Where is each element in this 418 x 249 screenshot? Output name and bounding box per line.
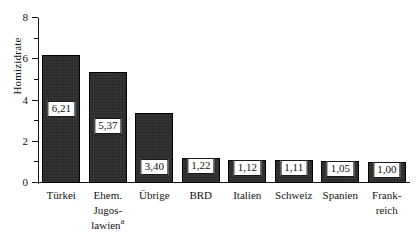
y-tick-label: 2 <box>23 133 29 149</box>
bar-slot: 6,21 <box>42 18 80 183</box>
bar-slot: 5,37 <box>89 18 127 183</box>
x-axis-label-line: Frank- <box>355 188 418 203</box>
x-axis-label-line: reich <box>355 203 418 218</box>
x-axis-category-labels: TürkeiEhem.Jugos-lawienaÜbrigeBRDItalien… <box>38 188 410 248</box>
bar-slot: 1,05 <box>321 18 359 183</box>
x-axis-label: Frank-reich <box>355 188 418 218</box>
bar-series: 6,215,373,401,221,121,111,051,00 <box>38 18 410 183</box>
bar-value-label: 6,21 <box>48 101 75 117</box>
y-tick-label: 8 <box>23 9 29 25</box>
y-axis-title: Homizidrate <box>11 11 23 121</box>
footnote-marker: a <box>121 217 125 226</box>
bar-slot: 1,11 <box>275 18 313 183</box>
bar-value-label: 1,00 <box>373 162 400 178</box>
bar-value-label: 1,12 <box>234 160 261 176</box>
bar-value-label: 3,40 <box>141 159 168 175</box>
bar-slot: 1,00 <box>368 18 406 183</box>
y-tick-label: 6 <box>23 50 29 66</box>
x-axis-label-line: Jugos- <box>76 203 140 218</box>
bar-slot: 3,40 <box>135 18 173 183</box>
y-tick-label: 0 <box>23 174 29 190</box>
bar-value-label: 1,05 <box>327 161 354 177</box>
x-axis-label-line: lawiena <box>76 218 140 233</box>
bar-chart: Homizidrate 02468 6,215,373,401,221,121,… <box>0 0 418 249</box>
plot-area: 02468 6,215,373,401,221,121,111,051,00 <box>38 18 410 183</box>
bar-value-label: 1,11 <box>280 160 307 176</box>
bar-value-label: 5,37 <box>94 118 121 134</box>
bar-value-label: 1,22 <box>187 158 214 174</box>
bar-slot: 1,22 <box>182 18 220 183</box>
y-tick-label: 4 <box>23 92 29 108</box>
bar-slot: 1,12 <box>228 18 266 183</box>
bar[interactable] <box>42 55 80 183</box>
